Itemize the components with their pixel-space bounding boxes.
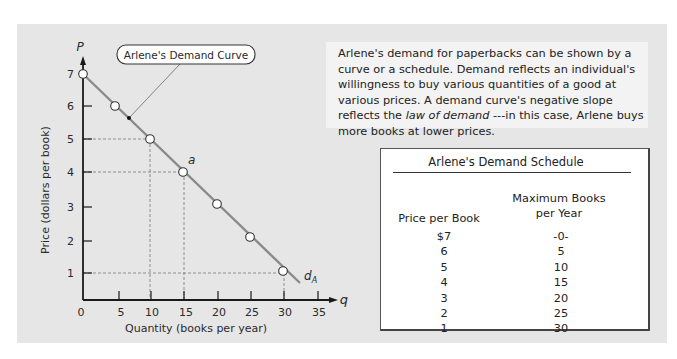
x-axis-symbol: q [340,292,348,307]
law-of-demand-emphasis: law of demand [406,109,490,122]
table-row: 65 [381,245,651,260]
y-tick-label: 5 [67,133,74,146]
data-point-a [179,168,188,177]
data-point [79,70,88,79]
table-row: 225 [381,307,651,322]
callout-leader-line [129,64,180,118]
price-cell: $7 [429,230,459,243]
callout-label: Arlene's Demand Curve [124,49,249,61]
table-row: 510 [381,261,651,276]
books-cell: 25 [541,307,581,320]
books-cell: 5 [541,245,581,258]
x-axis-arrow-icon [329,297,338,303]
table-row: 130 [381,322,651,337]
price-cell: 6 [429,245,459,258]
y-tick-label: 2 [67,235,74,248]
col-header-books: Maximum Books per Year [499,192,619,221]
col-header-books-line2: per Year [499,207,619,222]
y-tick-label: 4 [67,166,74,179]
x-tick-label: 5 [118,306,125,319]
point-a-label: a [188,153,195,167]
x-axis-label: Quantity (books per year) [125,322,267,335]
x-tick-label: 15 [179,306,193,319]
y-tick-label: 6 [67,100,74,113]
x-tick-label: 20 [212,306,226,319]
price-cell: 5 [429,261,459,274]
data-point [111,102,120,111]
x-tick-label: 0 [78,306,85,319]
books-cell: 15 [541,276,581,289]
price-cell: 1 [429,322,459,335]
col-header-books-line1: Maximum Books [499,192,619,207]
books-cell: -0- [541,230,581,243]
data-point [146,135,155,144]
books-cell: 10 [541,261,581,274]
data-point [246,233,255,242]
y-axis-label: Price (dollars per book) [39,126,52,254]
books-cell: 20 [541,292,581,305]
demand-chart: 7 6 5 4 3 2 1 0 5 10 15 20 25 30 35 Quan… [0,0,360,359]
price-cell: 2 [429,307,459,320]
y-axis-arrow-icon [80,56,86,65]
col-header-price: Price per Book [389,212,489,227]
y-tick-label: 7 [67,68,74,81]
table-row: 320 [381,292,651,307]
data-point [279,267,288,276]
books-cell: 30 [541,322,581,335]
y-ticks [83,106,92,273]
callout-dot [127,116,131,120]
y-axis-symbol: P [76,40,84,54]
x-tick-label: 35 [312,306,326,319]
price-cell: 3 [429,292,459,305]
schedule-rows: $7-0- 65 510 415 320 225 130 [381,230,651,338]
y-tick-label: 1 [67,267,74,280]
x-tick-label: 30 [278,306,292,319]
price-cell: 4 [429,276,459,289]
curve-label: dA [304,269,317,285]
axes [83,62,332,300]
table-row: 415 [381,276,651,291]
description-box: Arlene's demand for paperbacks can be sh… [326,42,648,128]
table-row: $7-0- [381,230,651,245]
data-point [213,200,222,209]
y-tick-label: 3 [67,201,74,214]
title-rule [393,172,631,173]
schedule-title: Arlene's Demand Schedule [381,155,631,169]
x-ticks [119,291,318,300]
x-tick-label: 25 [245,306,259,319]
demand-schedule-table: Arlene's Demand Schedule Price per Book … [380,148,650,331]
x-tick-label: 10 [145,306,159,319]
dashed-guides [83,139,284,300]
